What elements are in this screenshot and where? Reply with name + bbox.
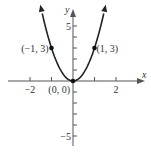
axis-labels: −225−5xy <box>25 4 147 142</box>
axes <box>8 9 145 146</box>
point-label: (−1, 3) <box>21 43 48 55</box>
point-marker <box>49 46 54 51</box>
x-axis-label: x <box>141 69 147 80</box>
x-tick-label: 2 <box>114 84 119 95</box>
point-marker <box>71 79 76 84</box>
curve-arrow-icon <box>39 5 45 12</box>
x-tick-label: −2 <box>25 84 36 95</box>
labeled-points: (−1, 3)(0, 0)(1, 3) <box>21 43 118 96</box>
y-tick-label: 5 <box>66 21 71 32</box>
y-axis-arrow-icon <box>70 9 76 17</box>
parabola-chart: (−1, 3)(0, 0)(1, 3) −225−5xy <box>0 0 151 154</box>
y-axis-label: y <box>64 4 70 15</box>
y-tick-label: −5 <box>60 131 71 142</box>
point-label: (1, 3) <box>97 43 119 55</box>
curve-arrow-icon <box>101 5 107 12</box>
point-label: (0, 0) <box>48 84 70 96</box>
